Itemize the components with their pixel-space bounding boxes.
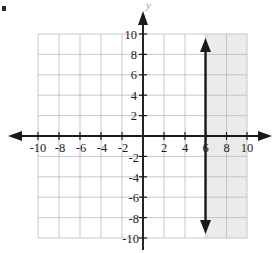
x-tick-label--2: -2	[118, 141, 128, 155]
x-tick-label-8: 8	[223, 141, 229, 155]
x-tick-label-10: 10	[241, 141, 254, 155]
y-axis	[138, 11, 148, 250]
y-tick-label--10: -10	[122, 232, 139, 246]
x-tick-label--8: -8	[55, 141, 65, 155]
y-tick-label-4: 4	[131, 89, 138, 103]
graph-figure: -10 -8 -6 -4 -2 2 4 6 8 10 10 8 6 4 2 -2…	[0, 0, 278, 253]
y-tick-label--6: -6	[129, 191, 139, 205]
y-tick-label--8: -8	[129, 212, 139, 226]
x-tick-label-6: 6	[202, 141, 208, 155]
y-axis-label: y	[145, 0, 151, 11]
x-tick-label-2: 2	[161, 141, 167, 155]
coordinate-plane-svg: -10 -8 -6 -4 -2 2 4 6 8 10 10 8 6 4 2 -2…	[0, 0, 278, 253]
x-tick-label--4: -4	[97, 141, 108, 155]
y-tick-label-2: 2	[131, 109, 137, 123]
x-tick-label--6: -6	[76, 141, 86, 155]
x-tick-label--10: -10	[30, 141, 47, 155]
x-tick-label-4: 4	[182, 141, 189, 155]
y-tick-label--4: -4	[129, 171, 140, 185]
x-axis-right-arrowhead	[258, 131, 272, 141]
y-tick-label-8: 8	[131, 48, 137, 62]
y-tick-label-10: 10	[125, 28, 138, 42]
x-axis-left-arrowhead	[8, 131, 22, 141]
y-axis-top-arrowhead	[138, 11, 148, 25]
y-tick-label--2: -2	[129, 151, 139, 165]
y-tick-label-6: 6	[131, 68, 137, 82]
